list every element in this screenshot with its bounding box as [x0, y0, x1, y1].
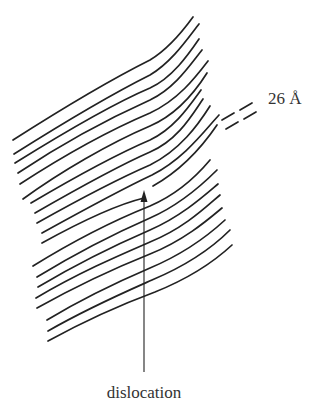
spacing-dash — [222, 113, 234, 120]
arrow-head-icon — [141, 190, 148, 202]
lattice-layer — [38, 184, 218, 287]
lattice-layer — [48, 245, 232, 341]
lattice-layer — [48, 230, 230, 331]
dislocation-arrow — [141, 190, 148, 372]
spacing-dash — [226, 122, 238, 129]
lattice-layer — [153, 125, 217, 186]
spacing-dash — [240, 103, 252, 110]
lattice-layer — [35, 99, 203, 213]
spacing-dashes — [222, 103, 256, 129]
spacing-label: 26 Å — [268, 89, 302, 108]
dislocation-diagram: 26 Å dislocation — [0, 0, 325, 411]
lattice-layer — [23, 73, 207, 199]
lattice-layer — [31, 90, 201, 203]
dislocation-label: dislocation — [107, 383, 182, 402]
spacing-dash — [244, 112, 256, 119]
lattice-layer — [36, 195, 220, 298]
lattice-layers — [13, 17, 232, 341]
